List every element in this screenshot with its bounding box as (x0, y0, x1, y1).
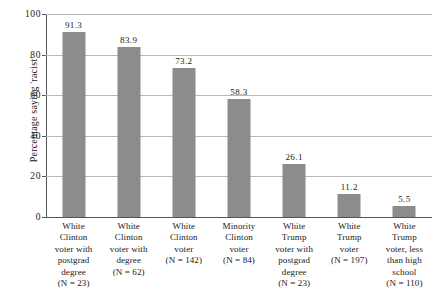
bar: 73.2 (172, 68, 195, 217)
bar: 58.3 (228, 99, 251, 217)
sample-size-label: (N = 23) (262, 278, 326, 289)
y-tick-mark (42, 55, 46, 56)
x-category-line: Trump (372, 232, 436, 243)
bar: 26.1 (283, 164, 306, 217)
y-tick-mark (42, 136, 46, 137)
bar-chart: Percentage saying 'racist' 020406080100 … (0, 0, 442, 300)
x-category-label: WhiteTrumpvoter, lessthan highschool(N =… (372, 221, 436, 289)
bar-value-label: 11.2 (341, 182, 358, 192)
gridline (46, 14, 432, 15)
y-tick-label: 40 (30, 131, 41, 141)
gridline (46, 55, 432, 56)
x-category-line: White (372, 221, 436, 232)
plot-area: 020406080100 91.383.973.258.326.111.25.5 (46, 14, 432, 217)
y-tick-label: 80 (30, 50, 41, 60)
y-axis-line (46, 14, 47, 217)
y-tick-label: 20 (30, 171, 41, 181)
x-category-line: voter, less (372, 244, 436, 255)
y-tick-mark (42, 95, 46, 96)
sample-size-label: (N = 23) (42, 278, 106, 289)
bar: 91.3 (62, 32, 85, 217)
sample-size-label: (N = 110) (372, 278, 436, 289)
y-tick-mark (42, 14, 46, 15)
bar: 83.9 (117, 47, 140, 217)
y-tick-label: 100 (25, 9, 41, 19)
x-category-line: school (372, 267, 436, 278)
y-tick-mark (42, 217, 46, 218)
bar-value-label: 73.2 (175, 56, 192, 66)
bar: 11.2 (338, 194, 361, 217)
y-tick-mark (42, 176, 46, 177)
sample-size-label: (N = 62) (97, 267, 161, 278)
y-tick-label: 60 (30, 90, 41, 100)
bar-value-label: 26.1 (285, 152, 302, 162)
x-axis-line (46, 217, 432, 218)
x-category-line: than high (372, 255, 436, 266)
x-category-line: degree (262, 267, 326, 278)
bar-value-label: 5.5 (398, 194, 410, 204)
bar-value-label: 91.3 (65, 20, 82, 30)
bar-value-label: 58.3 (230, 87, 247, 97)
bar-value-label: 83.9 (120, 35, 137, 45)
bar: 5.5 (393, 206, 416, 217)
y-tick-label: 0 (36, 212, 41, 222)
